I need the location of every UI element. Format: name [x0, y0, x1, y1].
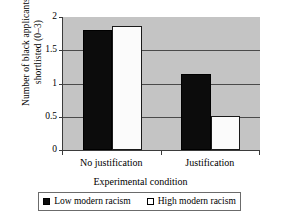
bar-justification-low-modern-racism [181, 74, 211, 150]
x-tick-label-no-justification: No justification [80, 156, 143, 169]
y-tick-mark-1-5 [59, 50, 63, 51]
x-tick-label-justification: Justification [185, 156, 234, 169]
bar-no-justification-high-modern-racism [112, 26, 142, 150]
bar-justification-high-modern-racism [211, 116, 241, 150]
legend-label-low-modern-racism: Low modern racism [54, 196, 131, 207]
black-square-swatch-icon [43, 198, 50, 205]
x-axis-title: Experimental condition [0, 175, 281, 188]
legend-entry-high-modern-racism: High modern racism [147, 196, 236, 207]
legend-label-high-modern-racism: High modern racism [158, 196, 236, 207]
x-tick-mark-right [259, 150, 260, 155]
white-square-swatch-icon [147, 198, 154, 205]
x-tick-mark-mid [161, 150, 162, 155]
y-tick-label-2: 2 [36, 12, 57, 22]
legend-entry-low-modern-racism: Low modern racism [43, 196, 131, 207]
y-tick-label-0: 0 [36, 145, 57, 155]
y-tick-label-0-5: 0.5 [36, 112, 57, 122]
plot-area [62, 17, 260, 151]
chart-legend: Low modern racism High modern racism [38, 192, 241, 211]
y-tick-label-1: 1 [36, 79, 57, 89]
x-axis-tick-labels: No justification Justification [62, 156, 260, 172]
bar-chart-figure: Number of black applicants shortlisted (… [0, 0, 281, 219]
y-tick-label-1-5: 1.5 [36, 46, 57, 56]
y-tick-mark-0-5 [59, 117, 63, 118]
bar-no-justification-low-modern-racism [83, 30, 113, 150]
y-tick-mark-2 [59, 17, 63, 18]
x-tick-mark-left [62, 150, 63, 155]
y-tick-mark-1 [59, 84, 63, 85]
